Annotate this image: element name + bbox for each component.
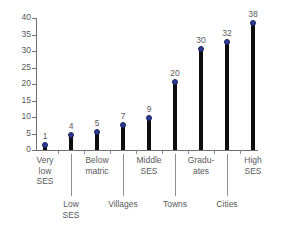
y-axis-tick-mark — [32, 101, 36, 102]
y-axis-tick-mark — [32, 18, 36, 19]
data-value-label: 9 — [147, 104, 152, 114]
y-axis-tick-label: 25 — [22, 62, 31, 73]
group-separator-line — [175, 154, 176, 196]
x-axis-minor-tick — [136, 150, 137, 154]
y-axis-tick: 25 — [36, 68, 37, 69]
y-axis-tick-mark — [32, 51, 36, 52]
category-label: Very low SES — [36, 155, 53, 187]
y-axis-tick: 35 — [36, 35, 37, 36]
x-axis-line — [36, 150, 258, 151]
group-separator-line — [123, 154, 124, 196]
group-separator-line — [227, 154, 228, 196]
data-point-marker — [42, 142, 48, 148]
data-value-label: 1 — [43, 131, 48, 141]
bar — [121, 127, 125, 150]
category-label: High SES — [244, 155, 261, 176]
data-value-label: 38 — [248, 9, 257, 19]
group-separator-line — [71, 154, 72, 196]
bar-chart: 0510152025303540 1457920303238 Very low … — [0, 0, 283, 235]
category-label: Gradu- ates — [188, 155, 214, 176]
bar — [173, 84, 177, 150]
y-axis-tick-mark — [32, 35, 36, 36]
y-axis-tick-mark — [32, 117, 36, 118]
group-label: Low SES — [62, 199, 79, 220]
y-axis-tick: 0 — [36, 150, 37, 151]
x-axis-minor-tick — [240, 150, 241, 154]
y-axis-tick: 20 — [36, 84, 37, 85]
category-label: Middle SES — [136, 155, 161, 176]
y-axis-tick-mark — [32, 68, 36, 69]
x-axis-minor-tick — [162, 150, 163, 154]
y-axis-tick-label: 30 — [22, 45, 31, 56]
x-axis-minor-tick — [214, 150, 215, 154]
data-value-label: 4 — [69, 121, 74, 131]
y-axis-tick-mark — [32, 134, 36, 135]
y-axis-tick: 30 — [36, 51, 37, 52]
x-axis-minor-tick — [58, 150, 59, 154]
category-label: Below matric — [85, 155, 108, 176]
bar — [251, 25, 255, 150]
group-label: Towns — [163, 199, 187, 210]
bar — [95, 134, 99, 151]
y-axis-tick: 5 — [36, 134, 37, 135]
data-point-marker — [94, 129, 100, 135]
data-point-marker — [172, 79, 178, 85]
y-axis-tick-label: 10 — [22, 111, 31, 122]
data-point-marker — [250, 20, 256, 26]
bar — [69, 137, 73, 150]
y-axis-tick-label: 35 — [22, 29, 31, 40]
data-value-label: 20 — [170, 68, 179, 78]
y-axis-tick-label: 5 — [26, 128, 31, 139]
y-axis-tick-mark — [32, 150, 36, 151]
x-axis-minor-tick — [188, 150, 189, 154]
y-axis-tick: 15 — [36, 101, 37, 102]
bar — [199, 51, 203, 150]
data-point-marker — [68, 132, 74, 138]
group-label: Villages — [108, 199, 138, 210]
y-axis-tick-label: 0 — [26, 144, 31, 155]
bar — [147, 120, 151, 150]
y-axis-tick: 40 — [36, 18, 37, 19]
y-axis-tick-label: 15 — [22, 95, 31, 106]
data-point-marker — [120, 122, 126, 128]
x-axis-minor-tick — [110, 150, 111, 154]
x-axis-minor-tick — [84, 150, 85, 154]
data-value-label: 5 — [95, 118, 100, 128]
y-axis-tick-mark — [32, 84, 36, 85]
group-label: Cities — [216, 199, 237, 210]
bar — [225, 44, 229, 150]
data-point-marker — [198, 46, 204, 52]
y-axis-tick: 10 — [36, 117, 37, 118]
y-axis-tick-label: 20 — [22, 78, 31, 89]
y-axis-tick-label: 40 — [22, 12, 31, 23]
data-value-label: 30 — [196, 35, 205, 45]
data-value-label: 7 — [121, 111, 126, 121]
data-value-label: 32 — [222, 28, 231, 38]
